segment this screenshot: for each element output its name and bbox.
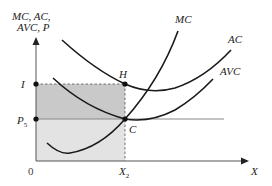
point-c (122, 116, 127, 121)
loss-area (36, 84, 125, 119)
x-axis-arrow-icon (241, 158, 249, 165)
x-tick-label-x2: X2 (118, 165, 130, 180)
point-h (122, 81, 127, 86)
point-i (33, 81, 38, 86)
origin-label: 0 (28, 165, 34, 177)
curve-label-avc: AVC (219, 65, 241, 77)
point-label-h: H (118, 68, 128, 80)
y-tick-label-i: I (20, 78, 26, 90)
point-p5 (33, 116, 38, 121)
x-axis-label: X (250, 165, 259, 177)
cost-curves-diagram: MC, AC, AVC, P MC AC AVC H C I P5 0 X2 X (0, 0, 272, 186)
curve-label-mc: MC (174, 13, 192, 25)
ac-curve (62, 40, 231, 91)
revenue-area (36, 119, 125, 161)
y-axis-label-line2: AVC, P (16, 21, 50, 33)
y-tick-label-p5: P5 (16, 114, 28, 129)
y-axis-arrow-icon (33, 37, 40, 45)
point-label-c: C (129, 123, 137, 135)
curve-label-ac: AC (227, 33, 243, 45)
